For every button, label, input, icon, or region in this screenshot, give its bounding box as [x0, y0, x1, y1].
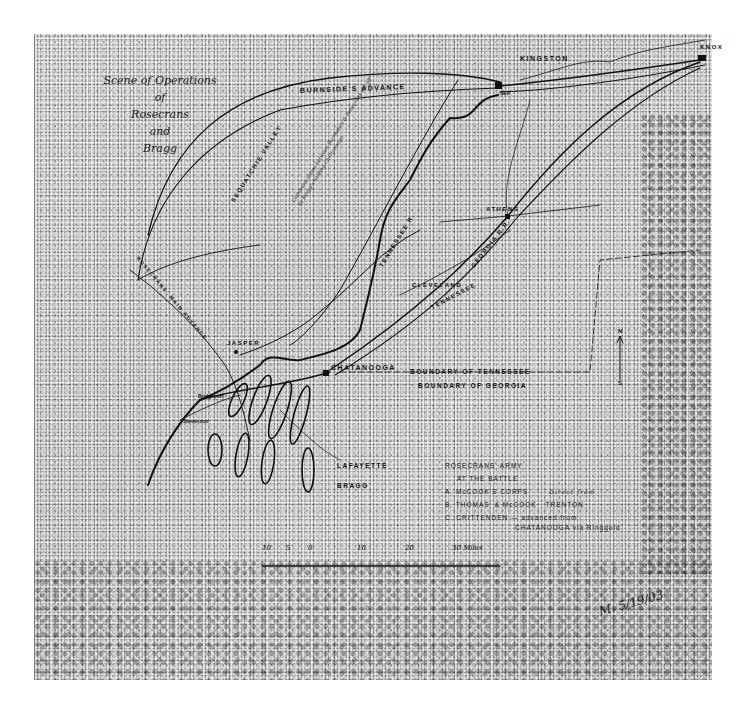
place-cleveland: CLEVELAND [412, 282, 462, 288]
place-knoxville: KNOX [700, 44, 723, 50]
road-kingston-knoxville [500, 60, 700, 86]
scale-tick: 30 Miles [452, 544, 483, 552]
legend-key: B. [445, 501, 453, 508]
title-line-1: Scene of Operations [100, 72, 220, 89]
place-jasper: JASPER [227, 340, 260, 346]
place-stevenson: Stevenson [183, 418, 208, 424]
place-bridgeport: Bridgeport [198, 393, 224, 399]
title-line-4: and [100, 123, 220, 140]
legend-text: McCOOK'S CORPS [456, 488, 528, 495]
road-athens-north [506, 100, 530, 216]
place-athens: ATHENS [486, 206, 519, 212]
title-line-2: of [100, 89, 220, 106]
legend-key: C. [445, 514, 454, 521]
map-title: Scene of Operations of Rosecrans and Bra… [100, 72, 220, 157]
road-rosecrans-main [130, 270, 250, 440]
legend-text: CRITTENDEN — advanced from [456, 514, 577, 521]
scale-tick: 5 [286, 544, 290, 552]
kingston-marker [495, 82, 502, 89]
label-boundary-georgia: BOUNDARY OF GEORGIA [418, 382, 527, 389]
label-boundary-tennessee: BOUNDARY OF TENNESSEE [410, 368, 531, 375]
place-kingston: KINGSTON [520, 55, 569, 62]
army-legend: ROSECRANS' ARMY AT THE BATTLE A. McCOOK'… [445, 462, 620, 537]
place-chattanooga: CHATANOOGA [331, 364, 396, 371]
place-lafayette: LAFAYETTE [337, 462, 388, 469]
road-kingston-knoxville-2 [500, 65, 705, 92]
railroad-knox-chatt-2 [335, 68, 700, 375]
boundary-dashed [340, 250, 700, 372]
title-line-3: Rosecrans [100, 106, 220, 123]
scale-tick: 10 [262, 544, 271, 552]
chattanooga-marker [323, 370, 329, 376]
scale-tick: 10 [357, 544, 366, 552]
scale-tick: 20 [405, 544, 414, 552]
scale-bar: 10 5 0 10 20 30 Miles [262, 556, 507, 568]
label-sep: SEP. [500, 90, 511, 96]
compass-south-label: S [618, 380, 624, 386]
legend-item-c-note: CHATANOOGA via Ringgold [515, 524, 620, 531]
legend-item-c: C. CRITTENDEN — advanced from [445, 514, 620, 521]
road-athens-west [440, 205, 600, 222]
legend-item-b: B. THOMAS' & McCOOK TRENTON [445, 501, 620, 508]
legend-text: THOMAS' & McCOOK [456, 501, 537, 508]
road-lafayette [280, 410, 340, 460]
scale-tick: 0 [308, 544, 312, 552]
mountain-ridges [208, 373, 314, 492]
legend-note: TRENTON [545, 501, 583, 508]
knoxville-marker [698, 55, 706, 61]
legend-subtitle: AT THE BATTLE [457, 475, 620, 482]
legend-title: ROSECRANS' ARMY [445, 462, 620, 469]
legend-note: Direct from [549, 488, 595, 495]
legend-item-a: A. McCOOK'S CORPS Direct from [445, 488, 620, 495]
title-line-5: Bragg [100, 140, 220, 157]
jasper-marker [234, 350, 238, 354]
place-bragg: BRAGG [337, 482, 369, 489]
legend-key: A. [445, 488, 453, 495]
compass-north-label: N [618, 328, 624, 334]
